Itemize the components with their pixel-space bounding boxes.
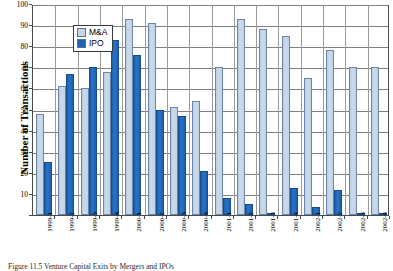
legend-swatch-ma-icon: [77, 28, 86, 37]
chart-legend: M&A IPO: [73, 25, 113, 52]
bar-ma: [103, 72, 111, 215]
bar-ma: [349, 67, 357, 215]
bar-ipo: [66, 74, 74, 215]
x-tick-mark: [188, 216, 189, 219]
x-axis-tick-labels: 1999-11999-21999-31999-42000-12000-22000…: [32, 216, 389, 258]
bar-ipo: [290, 188, 298, 215]
x-tick-mark: [166, 216, 167, 219]
x-tick-label: 2001-3: [269, 212, 277, 256]
x-tick-label: 1999-1: [46, 212, 54, 256]
bar-ma: [237, 19, 245, 215]
bar-ipo: [156, 110, 164, 216]
y-tick-label: 100: [2, 1, 28, 9]
bar-group: [368, 6, 390, 215]
bar-group: [301, 6, 323, 215]
x-tick-label: 2000-2: [158, 212, 166, 256]
x-tick-label: 1999-2: [68, 212, 76, 256]
bar-ma: [304, 78, 312, 215]
x-tick-mark: [121, 216, 122, 219]
bar-ma: [125, 19, 133, 215]
bar-ma: [326, 50, 334, 215]
bar-group: [234, 6, 256, 215]
y-tick-mark: [29, 88, 32, 89]
y-tick-mark: [29, 110, 32, 111]
bar-ma: [58, 86, 66, 215]
bar-group: [278, 6, 300, 215]
y-tick-label: 70: [2, 64, 28, 72]
bar-ipo: [200, 171, 208, 215]
legend-label-ma: M&A: [89, 28, 107, 37]
bar-group: [212, 6, 234, 215]
figure-caption: Figure 11.5 Venture Capital Exits by Mer…: [8, 262, 388, 271]
x-tick-mark: [144, 216, 145, 219]
y-tick-label: 50: [2, 107, 28, 115]
y-tick-label: 30: [2, 149, 28, 157]
bar-ma: [81, 88, 89, 215]
y-tick-label: 90: [2, 22, 28, 30]
bar-group: [122, 6, 144, 215]
y-tick-mark: [29, 4, 32, 5]
y-tick-label: 20: [2, 170, 28, 178]
y-tick-mark: [29, 152, 32, 153]
x-tick-label: 2001-1: [225, 212, 233, 256]
bar-ipo: [89, 67, 97, 215]
bar-ipo: [44, 162, 52, 215]
x-tick-label: 2001-2: [247, 212, 255, 256]
x-tick-mark: [389, 216, 390, 219]
bar-group: [345, 6, 367, 215]
x-tick-label: 2000-4: [202, 212, 210, 256]
x-tick-label: 2002-1: [314, 212, 322, 256]
bar-ipo: [133, 55, 141, 215]
bar-ma: [36, 114, 44, 215]
x-tick-label: 2002-4: [381, 212, 389, 256]
bar-group: [167, 6, 189, 215]
x-tick-mark: [367, 216, 368, 219]
bar-group: [323, 6, 345, 215]
bar-group: [145, 6, 167, 215]
x-tick-label: 2001-4: [292, 212, 300, 256]
plot-area: M&A IPO: [32, 5, 389, 216]
x-tick-mark: [211, 216, 212, 219]
chart-container: Number of Transactions M&A IPO 010203040…: [0, 0, 393, 271]
y-tick-label: 60: [2, 85, 28, 93]
y-tick-mark: [29, 131, 32, 132]
y-tick-mark: [29, 173, 32, 174]
bar-ma: [259, 29, 267, 215]
x-tick-mark: [300, 216, 301, 219]
y-tick-mark: [29, 25, 32, 26]
y-tick-mark: [29, 67, 32, 68]
x-tick-mark: [322, 216, 323, 219]
x-tick-mark: [233, 216, 234, 219]
bar-ipo: [178, 116, 186, 215]
bar-ipo: [111, 40, 119, 215]
x-tick-label: 1999-3: [91, 212, 99, 256]
x-tick-mark: [277, 216, 278, 219]
x-tick-mark: [255, 216, 256, 219]
y-tick-mark: [29, 194, 32, 195]
y-tick-label: 10: [2, 191, 28, 199]
legend-swatch-ipo-icon: [77, 39, 86, 48]
bar-ma: [148, 23, 156, 215]
y-tick-label: 80: [2, 43, 28, 51]
legend-item-ipo: IPO: [77, 39, 107, 48]
x-tick-label: 2000-3: [180, 212, 188, 256]
bar-group: [33, 6, 55, 215]
legend-item-ma: M&A: [77, 28, 107, 37]
x-tick-label: 2002-2: [336, 212, 344, 256]
x-tick-mark: [99, 216, 100, 219]
bar-ma: [282, 36, 290, 215]
x-tick-mark: [344, 216, 345, 219]
bar-ma: [192, 101, 200, 215]
legend-label-ipo: IPO: [89, 39, 104, 48]
x-tick-label: 2000-1: [135, 212, 143, 256]
x-tick-mark: [54, 216, 55, 219]
x-tick-label: 2002-3: [359, 212, 367, 256]
y-tick-mark: [29, 46, 32, 47]
bar-ma: [371, 67, 379, 215]
y-tick-label: 40: [2, 128, 28, 136]
bar-ma: [170, 107, 178, 215]
x-tick-label: 1999-4: [113, 212, 121, 256]
x-tick-mark: [77, 216, 78, 219]
bar-group: [189, 6, 211, 215]
bar-ma: [215, 67, 223, 215]
